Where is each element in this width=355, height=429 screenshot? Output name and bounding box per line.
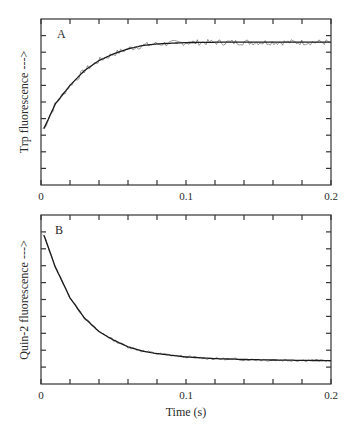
panel-a: A Trp fluorescence ---> 0 0.1 0.2 <box>17 19 338 202</box>
panel-b-xtick-1: 0.1 <box>179 389 193 401</box>
panel-a-xtick-1: 0.1 <box>179 190 193 202</box>
panel-b-ylabel: Quin-2 fluorescence ---> <box>17 240 31 360</box>
panel-a-fit-curve <box>44 42 331 128</box>
panel-a-label: A <box>57 27 66 41</box>
panel-b-xtick-0: 0 <box>38 389 44 401</box>
panel-b-xlabel: Time (s) <box>166 405 207 419</box>
panel-b-frame <box>41 215 331 384</box>
panel-a-xtick-2: 0.2 <box>324 190 338 202</box>
panel-a-data-points <box>43 39 330 128</box>
panel-b-data-points <box>43 235 330 362</box>
panel-a-ylabel: Trp fluorescence ---> <box>17 51 31 154</box>
panel-b-xtick-2: 0.2 <box>324 389 338 401</box>
panel-a-ticks <box>41 19 331 185</box>
panel-b: B Quin-2 fluorescence ---> 0 0.1 0.2 Tim… <box>17 215 338 419</box>
figure: A Trp fluorescence ---> 0 0.1 0.2 B Quin… <box>0 0 355 429</box>
panel-a-xtick-0: 0 <box>38 190 44 202</box>
panel-b-label: B <box>55 223 63 237</box>
panel-a-frame <box>41 19 331 185</box>
panel-b-fit-curve <box>44 235 331 360</box>
panel-b-ticks <box>41 215 331 384</box>
